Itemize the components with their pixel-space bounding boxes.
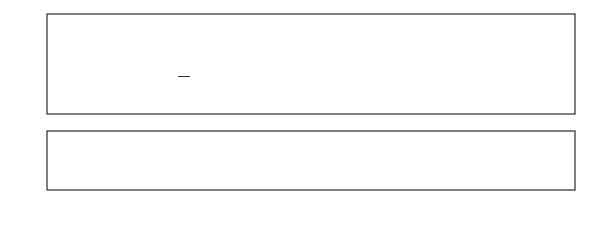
climate-figure — [0, 0, 597, 229]
figure-svg — [0, 0, 597, 229]
